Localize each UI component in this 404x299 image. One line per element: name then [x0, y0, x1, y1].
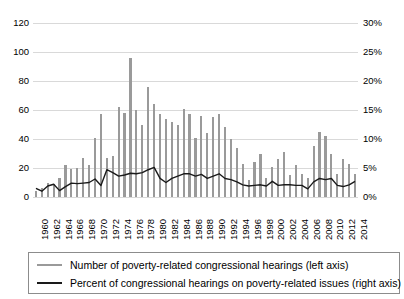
x-axis-tick: 2010	[335, 219, 345, 240]
right-axis-tick: 5%	[363, 163, 377, 173]
left-axis-tick: 60	[18, 105, 29, 115]
x-axis-tick: 1976	[135, 219, 145, 240]
x-axis-tick: 1968	[87, 219, 97, 240]
x-axis-tick: 1992	[229, 219, 239, 240]
x-axis-tick: 2002	[288, 219, 298, 240]
x-axis-tick: 1974	[123, 219, 133, 240]
x-axis-tick: 1994	[241, 219, 251, 240]
x-axis-tick: 2012	[347, 219, 357, 240]
x-axis-tick: 2006	[312, 219, 322, 240]
right-axis-tick: 10%	[363, 134, 382, 144]
x-axis-tick: 2008	[324, 219, 334, 240]
x-axis-tick: 1996	[253, 219, 263, 240]
line-swatch-icon	[37, 282, 62, 284]
x-axis-tick: 1964	[64, 219, 74, 240]
x-axis-tick: 1978	[146, 219, 156, 240]
legend-label-bars: Number of poverty-related congressional …	[70, 259, 348, 271]
left-axis-tick: 120	[13, 18, 29, 28]
left-axis-tick: 40	[18, 134, 29, 144]
plot-area	[33, 23, 358, 197]
left-axis-tick: 80	[18, 76, 29, 86]
line-series	[33, 23, 358, 197]
right-axis-tick: 30%	[363, 18, 382, 28]
right-axis-tick: 0%	[363, 192, 377, 202]
x-axis-tick: 1990	[217, 219, 227, 240]
line-path	[36, 167, 355, 191]
legend-item-line: Percent of congressional hearings on pov…	[37, 275, 401, 291]
right-axis: 0%5%10%15%20%25%30%	[363, 23, 404, 197]
x-axis-tick: 1980	[158, 219, 168, 240]
x-axis-tick: 1982	[170, 219, 180, 240]
bar-swatch-icon	[37, 264, 62, 266]
x-axis-tick: 1960	[40, 219, 50, 240]
x-axis-tick: 1966	[75, 219, 85, 240]
x-axis-tick: 2014	[359, 219, 369, 240]
x-axis-tick: 1988	[205, 219, 215, 240]
left-axis-tick: 100	[13, 47, 29, 57]
right-axis-tick: 20%	[363, 76, 382, 86]
x-axis-tick: 1998	[265, 219, 275, 240]
legend-item-bars: Number of poverty-related congressional …	[37, 257, 348, 273]
left-axis-tick: 20	[18, 163, 29, 173]
chart-legend: Number of poverty-related congressional …	[28, 252, 400, 294]
poverty-hearings-chart: 020406080100120 0%5%10%15%20%25%30% 1960…	[0, 0, 404, 299]
x-axis-tick: 1962	[52, 219, 62, 240]
x-axis-tick: 1986	[194, 219, 204, 240]
x-axis-tick: 2004	[300, 219, 310, 240]
right-axis-tick: 15%	[363, 105, 382, 115]
left-axis-tick: 0	[24, 192, 29, 202]
x-axis-labels: 1960196219641966196819701972197419761978…	[33, 198, 358, 242]
x-axis-tick: 1972	[111, 219, 121, 240]
x-axis-tick: 2000	[276, 219, 286, 240]
x-axis-tick: 1984	[182, 219, 192, 240]
right-axis-tick: 25%	[363, 47, 382, 57]
x-axis-tick: 1970	[99, 219, 109, 240]
left-axis: 020406080100120	[0, 23, 29, 197]
legend-label-line: Percent of congressional hearings on pov…	[70, 277, 401, 289]
